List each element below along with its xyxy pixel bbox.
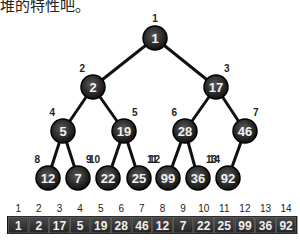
array-cell: 9912	[235, 203, 255, 233]
node-index: 14	[209, 154, 221, 165]
array-cell-value: 46	[135, 219, 149, 233]
array-cell-index: 6	[119, 203, 125, 214]
array-cell-value: 2	[36, 219, 43, 233]
array-cell-value: 7	[180, 219, 187, 233]
array-cell-index: 13	[260, 203, 272, 214]
tree-node: 195	[112, 107, 138, 143]
tree-node: 286	[171, 107, 197, 143]
array-cell-value: 17	[53, 219, 67, 233]
array-cell: 195	[91, 203, 111, 233]
array-cell-index: 7	[139, 203, 145, 214]
array-row: 1122173541952864671287922102511991236139…	[7, 203, 297, 234]
array-cell-index: 11	[219, 203, 230, 214]
node-index: 7	[253, 107, 259, 118]
array-cell: 9214	[276, 203, 296, 233]
node-value: 1	[151, 31, 158, 46]
array-cell-index: 3	[57, 203, 63, 214]
node-index: 6	[171, 107, 177, 118]
array-cell-index: 8	[160, 203, 166, 214]
array-cell-value: 12	[156, 219, 170, 233]
array-cell: 467	[132, 203, 152, 233]
node-value: 28	[178, 124, 192, 139]
node-value: 92	[221, 171, 235, 186]
node-index: 3	[224, 63, 230, 74]
array-cell-index: 2	[36, 203, 42, 214]
array-cell: 2511	[215, 203, 235, 233]
array-cell-value: 1	[15, 219, 22, 233]
array-cell: 286	[112, 203, 132, 233]
array-cell-value: 36	[259, 219, 273, 233]
node-value: 7	[74, 171, 81, 186]
tree-node: 22	[79, 63, 105, 99]
node-value: 46	[238, 124, 252, 139]
node-value: 36	[191, 171, 205, 186]
array-cell-value: 25	[218, 219, 232, 233]
heap-diagram: 1122173541952864671287922102511991236139…	[0, 0, 300, 240]
node-index: 4	[49, 107, 55, 118]
array-cell-value: 5	[77, 219, 84, 233]
tree-node: 54	[49, 107, 75, 143]
node-value: 19	[117, 124, 131, 139]
node-value: 12	[41, 171, 55, 186]
array-cell-index: 4	[77, 203, 83, 214]
array-cell-index: 1	[16, 203, 22, 214]
array-cell-index: 5	[98, 203, 104, 214]
node-value: 99	[161, 171, 175, 186]
array-cell: 22	[29, 203, 49, 233]
array-cell-value: 19	[94, 219, 108, 233]
node-value: 2	[89, 80, 96, 95]
tree-node: 173	[204, 63, 230, 99]
node-index: 2	[79, 63, 85, 74]
node-index: 1	[152, 13, 158, 24]
tree-node: 467	[233, 107, 259, 143]
array-cell-index: 14	[281, 203, 293, 214]
array-cell: 2210	[194, 203, 214, 233]
array-cell-value: 99	[238, 219, 252, 233]
node-index: 8	[34, 154, 40, 165]
array-cell: 79	[173, 203, 193, 233]
array-cell: 11	[9, 203, 29, 233]
node-index: 12	[149, 154, 161, 165]
tree-node: 128	[34, 154, 60, 190]
node-value: 22	[101, 171, 115, 186]
array-cell-value: 22	[197, 219, 211, 233]
tree-node: 11	[143, 13, 167, 50]
array-cell: 173	[50, 203, 70, 233]
node-value: 17	[209, 80, 223, 95]
array-cell: 3613	[256, 203, 276, 233]
array-cell-value: 92	[279, 219, 293, 233]
array-cell-value: 28	[115, 219, 129, 233]
array-cell: 54	[70, 203, 90, 233]
array-cell-index: 9	[180, 203, 186, 214]
array-cell: 128	[153, 203, 173, 233]
array-cell-index: 10	[198, 203, 210, 214]
node-value: 5	[59, 124, 66, 139]
node-value: 25	[132, 171, 146, 186]
node-index: 5	[132, 107, 138, 118]
node-index: 10	[89, 154, 101, 165]
array-cell-index: 12	[239, 203, 251, 214]
